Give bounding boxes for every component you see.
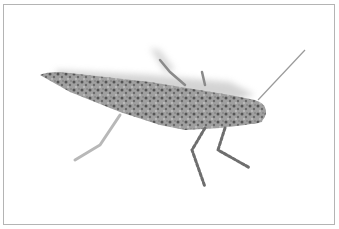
front-legs xyxy=(192,128,250,187)
grasshopper-photo xyxy=(0,0,339,229)
antenna xyxy=(258,50,305,100)
hind-leg xyxy=(75,115,120,160)
grasshopper-head xyxy=(238,100,266,124)
